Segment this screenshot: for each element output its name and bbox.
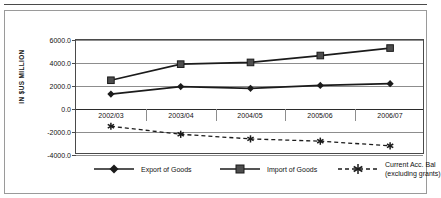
data-point-0-3 [317,82,324,89]
legend-label-current-account-line1: Current Acc. Bal [385,160,441,169]
chart-legend: Export of Goods Import of Goods Current … [70,158,419,184]
ytick-mark-minus4000 [72,155,76,156]
data-point-2-4 [387,142,393,149]
data-point-1-0 [108,77,115,84]
ytick-label-4000: 4000.0 [16,60,71,67]
ytick-label-minus2000: -2000.0 [16,129,71,136]
data-point-1-3 [317,52,324,59]
data-point-0-1 [177,83,184,90]
legend-item-export[interactable]: Export of Goods [92,163,192,175]
plot-area: 6000.0 4000.0 2000.0 0.0 -2000.0 -4000.0… [75,39,424,154]
data-point-1-2 [247,59,254,66]
data-point-1-1 [177,61,184,68]
series-layer [76,40,425,155]
ytick-label-6000: 6000.0 [16,37,71,44]
legend-label-import: Import of Goods [267,166,317,173]
legend-label-current-account-line2: (excluding grants) [385,169,441,178]
square-marker-icon [218,163,262,175]
data-point-1-4 [387,45,394,52]
asterisk-marker-icon [336,163,380,175]
legend-item-import[interactable]: Import of Goods [218,163,317,175]
legend-item-current-account[interactable]: Current Acc. Bal (excluding grants) [336,160,441,178]
ytick-label-2000: 2000.0 [16,83,71,90]
diamond-marker-icon [92,163,136,175]
data-point-0-0 [107,90,114,97]
gridline-minus4000 [76,155,423,156]
ytick-label-minus4000: -4000.0 [16,152,71,159]
legend-label-export: Export of Goods [141,166,192,173]
page-top-rule [4,4,427,5]
data-point-0-2 [247,85,254,92]
y-axis-title: IN $US MILLION [18,37,25,117]
ytick-label-0: 0.0 [16,106,71,113]
data-point-0-4 [387,80,394,87]
